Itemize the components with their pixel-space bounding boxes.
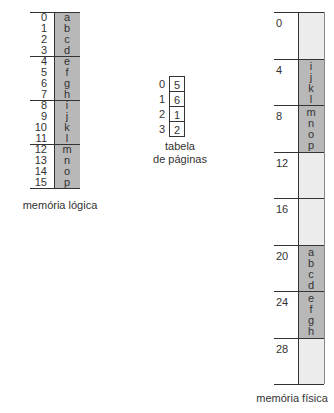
frame-address: 12 — [276, 157, 288, 169]
page-table-entry: 5 — [169, 76, 185, 92]
frame-content: h — [298, 326, 324, 337]
physical-memory-label: memória física — [250, 392, 334, 405]
frame-free — [298, 198, 324, 245]
page-table-entry: 1 — [169, 106, 185, 122]
logical-memory-label: memória lógica — [2, 199, 118, 212]
page-boundary — [30, 56, 80, 57]
frame-content: c — [298, 269, 324, 280]
frame-address: 20 — [276, 250, 288, 262]
page-table-label-2: de páginas — [140, 153, 220, 166]
frame-boundary — [274, 384, 324, 385]
frame-address: 8 — [276, 110, 282, 122]
page-table-label-1: tabela — [150, 140, 210, 153]
frame-boundary — [274, 198, 324, 199]
frame-boundary — [274, 291, 324, 292]
frame-content: l — [298, 94, 324, 105]
divider — [298, 12, 299, 384]
frame-content: d — [298, 280, 324, 291]
frame-content: i — [298, 61, 324, 72]
frame-address: 24 — [276, 296, 288, 308]
page-table-entry: 2 — [169, 121, 185, 137]
frame-content: a — [298, 247, 324, 258]
frame-content: j — [298, 72, 324, 83]
page-table-entry: 6 — [169, 91, 185, 107]
frame-boundary — [274, 338, 324, 339]
frame-content: b — [298, 258, 324, 269]
frame-free — [298, 338, 324, 385]
frame-address: 28 — [276, 343, 288, 355]
page-index: 1 — [155, 91, 165, 107]
page-boundary — [30, 12, 80, 13]
frame-boundary — [274, 59, 324, 60]
frame-boundary — [274, 152, 324, 153]
frame-boundary — [274, 105, 324, 106]
frame-address: 16 — [276, 203, 288, 215]
logical-address: 15 — [27, 177, 47, 188]
frame-content: k — [298, 83, 324, 94]
divider — [324, 12, 325, 384]
frame-address: 0 — [276, 17, 282, 29]
page-boundary — [30, 100, 80, 101]
page-boundary — [30, 188, 80, 189]
frame-boundary — [274, 245, 324, 246]
page-boundary — [30, 144, 80, 145]
page-index: 3 — [155, 121, 165, 137]
frame-address: 4 — [276, 64, 282, 76]
frame-boundary — [274, 12, 324, 13]
page-index: 0 — [155, 76, 165, 92]
frame-free — [298, 152, 324, 199]
frame-free — [298, 12, 324, 59]
frame-content: p — [298, 140, 324, 151]
page-index: 2 — [155, 106, 165, 122]
logical-content: p — [54, 177, 80, 188]
